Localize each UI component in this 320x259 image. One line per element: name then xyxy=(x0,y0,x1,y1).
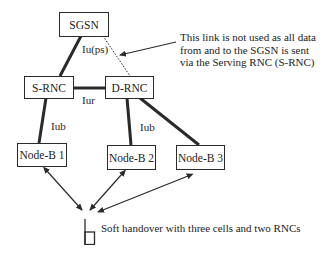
node-sgsn: SGSN xyxy=(59,12,109,37)
node-s-rnc: S-RNC xyxy=(24,76,74,99)
annotation-line: via the Serving RNC (S-RNC) xyxy=(180,56,316,69)
node-b3: Node-B 3 xyxy=(176,145,225,170)
caption: Soft handover with three cells and two R… xyxy=(101,222,301,234)
node-b2-label: Node-B 2 xyxy=(109,152,154,164)
node-s-rnc-label: S-RNC xyxy=(32,82,66,94)
mobile-phone-icon xyxy=(84,219,96,245)
annotation-line: This link is not used as all data xyxy=(180,31,316,44)
node-b1: Node-B 1 xyxy=(17,143,67,167)
node-d-rnc: D-RNC xyxy=(105,76,154,99)
annotation-line: from and to the SGSN is sent xyxy=(180,44,316,57)
annotation-arrow xyxy=(120,42,176,55)
link-sgsn-srnc xyxy=(60,36,81,76)
label-iur: Iur xyxy=(82,95,95,106)
soft-handover-diagram: SGSN S-RNC D-RNC Node-B 1 Node-B 2 Node-… xyxy=(0,0,320,259)
node-sgsn-label: SGSN xyxy=(69,19,98,31)
link-iub-drnc-nodeb2 xyxy=(127,98,131,145)
label-iub-left: Iub xyxy=(51,121,66,132)
label-iub-right: Iub xyxy=(140,122,155,133)
node-d-rnc-label: D-RNC xyxy=(112,82,148,94)
link-sgsn-drnc-unused xyxy=(103,36,130,76)
annotation-note: This link is not used as all data from a… xyxy=(180,31,316,69)
link-iub-srnc-nodeb1 xyxy=(39,98,46,143)
node-b1-label: Node-B 1 xyxy=(19,149,64,161)
radio-link-nodeb1 xyxy=(47,171,82,210)
label-iu-ps: Iu(ps) xyxy=(82,44,108,55)
node-b3-label: Node-B 3 xyxy=(178,152,223,164)
radio-link-nodeb3 xyxy=(98,176,188,212)
node-b2: Node-B 2 xyxy=(107,145,156,170)
